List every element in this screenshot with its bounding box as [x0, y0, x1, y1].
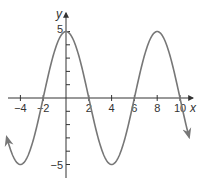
x-tick-label: 10: [174, 102, 186, 114]
x-tick-label: −2: [37, 102, 50, 114]
x-tick-label: 8: [154, 102, 160, 114]
x-axis-label: x: [189, 101, 197, 115]
x-tick-label: −4: [14, 102, 27, 114]
y-tick-label-5: 5: [57, 23, 63, 35]
y-tick-label-neg5: −5: [50, 159, 63, 171]
y-axis-label: y: [55, 7, 63, 21]
axes: [8, 13, 193, 178]
x-tick-label: 4: [109, 102, 115, 114]
cosine-graph: −4−22468105−5xy: [0, 0, 201, 186]
tick-labels: −4−22468105−5xy: [14, 7, 197, 171]
